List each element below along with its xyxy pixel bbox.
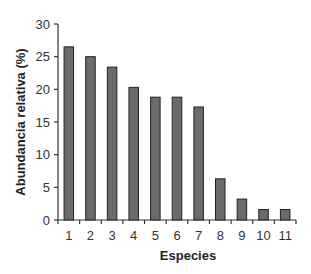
x-tick-label: 7	[195, 228, 202, 243]
bars	[64, 47, 290, 220]
x-axis: 1234567891011	[58, 220, 296, 243]
x-tick-label: 3	[108, 228, 115, 243]
x-tick-label: 1	[65, 228, 72, 243]
x-tick-label: 9	[238, 228, 245, 243]
x-tick-label: 2	[87, 228, 94, 243]
y-tick-label: 5	[43, 180, 50, 195]
x-tick-label: 6	[173, 228, 180, 243]
bar-species-11	[280, 210, 290, 220]
y-axis: 051015202530	[36, 17, 58, 228]
y-tick-label: 10	[36, 147, 50, 162]
bar-species-10	[259, 210, 269, 220]
bar-species-8	[216, 179, 226, 220]
bar-species-4	[129, 87, 139, 220]
y-tick-label: 15	[36, 115, 50, 130]
y-axis-title: Abundancia relativa (%)	[13, 48, 28, 195]
x-axis-title: Especies	[160, 248, 216, 263]
y-tick-label: 20	[36, 82, 50, 97]
x-tick-label: 5	[152, 228, 159, 243]
x-tick-label: 8	[217, 228, 224, 243]
bar-species-3	[107, 67, 117, 220]
bar-species-9	[237, 199, 247, 220]
bar-chart: 051015202530 1234567891011 Abundancia re…	[0, 0, 311, 274]
bar-species-1	[64, 47, 74, 220]
y-tick-label: 30	[36, 17, 50, 32]
bar-species-7	[194, 107, 204, 220]
x-tick-label: 10	[256, 228, 270, 243]
bar-species-6	[172, 97, 182, 220]
x-tick-label: 4	[130, 228, 137, 243]
bar-species-5	[151, 97, 161, 220]
y-tick-label: 0	[43, 213, 50, 228]
bar-species-2	[86, 57, 96, 220]
x-tick-label: 11	[278, 228, 292, 243]
y-tick-label: 25	[36, 49, 50, 64]
